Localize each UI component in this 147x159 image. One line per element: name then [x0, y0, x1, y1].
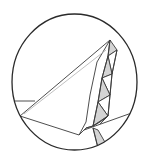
folded-paper — [0, 40, 140, 148]
bottom-tail — [79, 110, 140, 148]
origami-detail-figure — [0, 0, 147, 159]
diagram-canvas — [0, 0, 147, 159]
